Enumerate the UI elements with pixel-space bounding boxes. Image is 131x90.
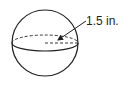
equator-back-dashed bbox=[12, 35, 78, 43]
equator-front bbox=[12, 43, 78, 51]
radius-label: 1.5 in. bbox=[86, 14, 119, 28]
